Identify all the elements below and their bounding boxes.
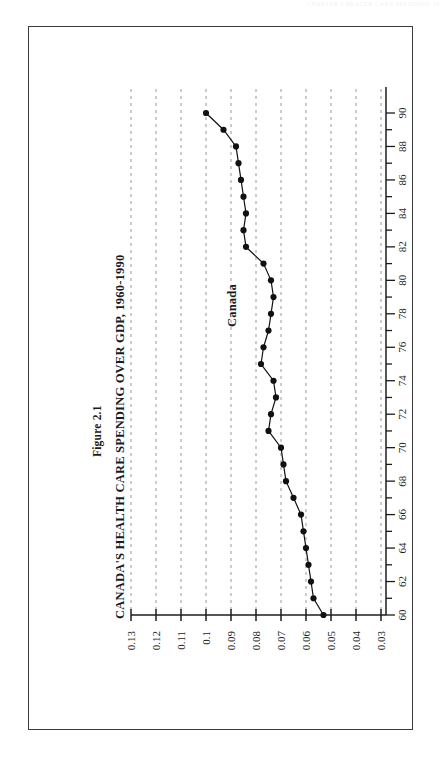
figure-title: CANADA'S HEALTH CARE SPENDING OVER GDP, …: [113, 255, 128, 619]
svg-text:0.05: 0.05: [325, 631, 337, 651]
svg-text:0.12: 0.12: [150, 631, 162, 650]
svg-text:66: 66: [396, 509, 408, 520]
svg-text:82: 82: [396, 241, 408, 252]
figure-label: Figure 2.1: [91, 405, 103, 457]
svg-text:0.1: 0.1: [200, 631, 212, 645]
svg-text:90: 90: [396, 107, 408, 119]
figure-frame: 0.130.120.110.10.090.080.070.060.050.040…: [28, 26, 413, 730]
svg-text:0.13: 0.13: [125, 631, 137, 651]
svg-text:80: 80: [396, 274, 408, 286]
svg-text:68: 68: [396, 475, 408, 487]
svg-text:0.09: 0.09: [225, 631, 237, 651]
svg-text:72: 72: [396, 409, 408, 420]
chart-canvas: 0.130.120.110.10.090.080.070.060.050.040…: [29, 27, 414, 731]
svg-text:0.08: 0.08: [250, 631, 262, 651]
svg-text:0.06: 0.06: [300, 631, 312, 651]
svg-text:0.11: 0.11: [175, 631, 187, 650]
svg-text:86: 86: [396, 174, 408, 186]
svg-text:78: 78: [396, 308, 408, 320]
svg-text:84: 84: [396, 207, 408, 219]
svg-text:64: 64: [396, 542, 408, 554]
svg-text:88: 88: [396, 140, 408, 152]
svg-text:60: 60: [396, 609, 408, 621]
svg-text:76: 76: [396, 341, 408, 353]
page-running-header: CHAPTER 2 HEALTH CARE SPENDING: [307, 1, 430, 7]
series-annotation-canada: Canada: [225, 284, 240, 327]
svg-text:62: 62: [396, 576, 408, 587]
svg-text:0.04: 0.04: [350, 631, 362, 651]
svg-text:74: 74: [396, 375, 408, 387]
svg-text:0.03: 0.03: [375, 631, 387, 651]
page-number: 19: [433, 1, 439, 7]
svg-text:0.07: 0.07: [275, 631, 287, 651]
svg-text:70: 70: [396, 442, 408, 454]
